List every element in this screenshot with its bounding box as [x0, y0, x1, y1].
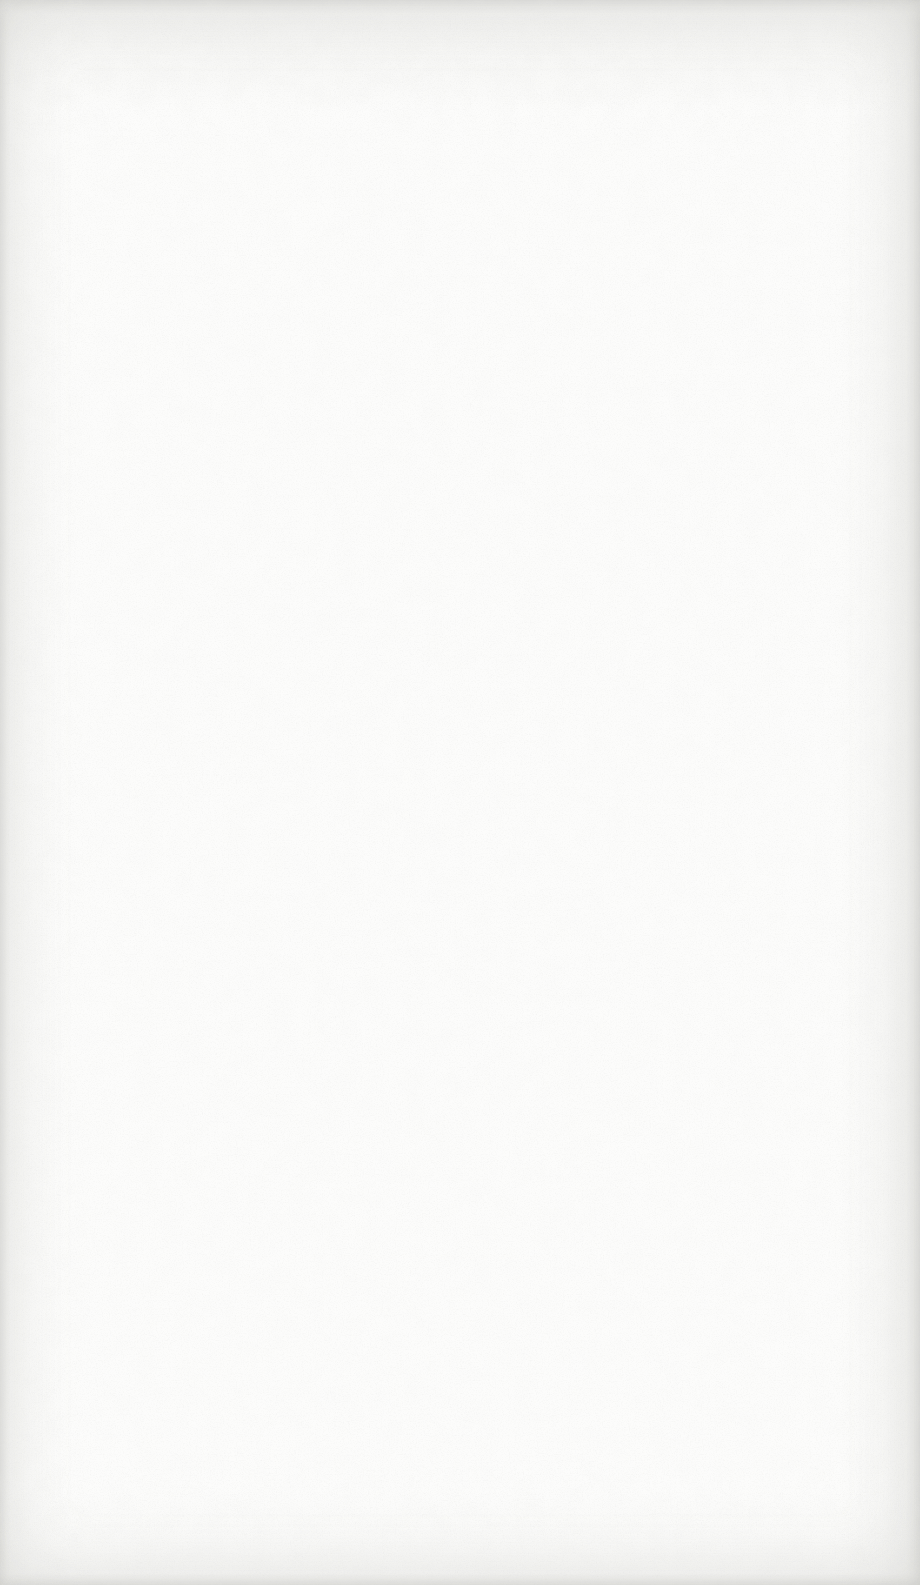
grain-right-band: [830, 0, 920, 1585]
grain-left-band: [0, 0, 90, 1585]
scanned-blank-page: [0, 0, 920, 1585]
grain-top-band: [0, 0, 920, 150]
paper-grain-texture: [0, 0, 920, 1585]
grain-bottom-band: [0, 1435, 920, 1585]
scan-edge-vignette: [0, 0, 920, 1585]
grain-mottle-layer: [0, 0, 920, 1585]
grain-fine-layer: [0, 0, 920, 1585]
